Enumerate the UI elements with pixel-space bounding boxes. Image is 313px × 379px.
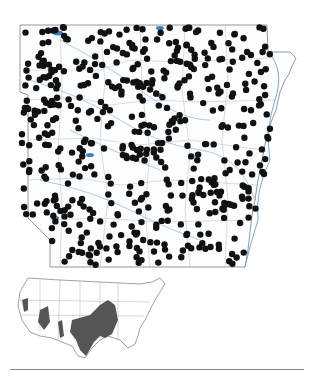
- divider-rule: [10, 369, 304, 370]
- arkansas-distribution-map: [0, 0, 313, 275]
- us-range-inset-map: [0, 270, 200, 360]
